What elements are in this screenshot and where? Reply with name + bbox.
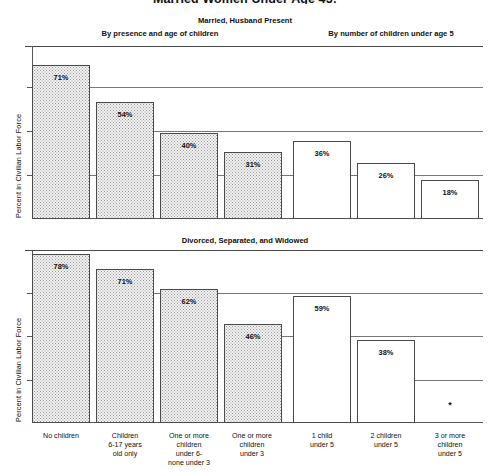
page-title: Married Women Under Age 45: [0, 0, 490, 4]
xlabel-line: Children [96, 432, 154, 441]
xlabel-line: none under 3 [158, 459, 220, 468]
panel1-bar-value: 26% [358, 171, 414, 180]
xlabel-line: old only [96, 450, 154, 459]
panel1-bar-under-3: 31% [224, 152, 282, 219]
panel2-bar-under-3: 46% [224, 324, 282, 423]
panel1-bar-3plus-children-under5: 18% [421, 180, 479, 219]
xlabel-line: One or more [158, 432, 220, 441]
xlabel-1-child-under5: 1 childunder 5 [293, 432, 351, 450]
xlabel-line: 6-17 years [96, 441, 154, 450]
xlabel-line: 3 or more [419, 432, 481, 441]
xlabel-under-3: One or morechildrenunder 3 [222, 432, 282, 459]
xlabel-3plus-children-under5: 3 or morechildrenunder 5 [419, 432, 481, 459]
xlabel-line: children [419, 441, 481, 450]
xlabel-line: 1 child [293, 432, 351, 441]
panel1-bar-value: 40% [161, 141, 217, 150]
panel1-bar-2-children-under5: 26% [357, 163, 415, 219]
chart-page: Married Women Under Age 45: Married, Hus… [0, 0, 490, 473]
panel1-plot-area: 71% 54% 40% 31% 36% 26% 18% [32, 46, 483, 219]
xlabel-children-6-17: Children6-17 yearsold only [96, 432, 154, 459]
xlabel-line: under 5 [293, 441, 351, 450]
xlabel-line: under 5 [357, 441, 415, 450]
panel2-suppressed-mark: * [421, 400, 479, 410]
xlabel-line: children [222, 441, 282, 450]
xlabel-line: 2 children [357, 432, 415, 441]
panel1-bar-value: 31% [225, 160, 281, 169]
panel1-bar-value: 36% [294, 149, 350, 158]
panel1-y-axis-label: Percent in Civilian Labor Force [14, 114, 23, 218]
panel1-bar-under6-none-under3: 40% [160, 133, 218, 219]
panel2-bar-1-child-under5: 59% [293, 296, 351, 423]
xlabel-line: under 3 [222, 450, 282, 459]
xlabel-line: One or more [222, 432, 282, 441]
panel1-group-left-label: By presence and age of children [25, 29, 295, 38]
panel1-gridline-40 [154, 131, 483, 132]
panel2-bar-3plus-children-under5-suppressed: * [421, 380, 479, 423]
panel2-plot-area: 78% 71% 62% 46% 59% 38% * [32, 250, 483, 423]
xlabel-2-children-under5: 2 childrenunder 5 [357, 432, 415, 450]
panel2-bar-value: 59% [294, 304, 350, 313]
xlabel-no-children: No children [32, 432, 90, 441]
panel1-bar-children-6-17: 54% [96, 102, 154, 219]
panel1-gridline-60 [90, 87, 483, 88]
xlabel-line: children [158, 441, 220, 450]
panel2-bar-2-children-under5: 38% [357, 340, 415, 423]
panel1-bar-value: 18% [422, 188, 478, 197]
panel1-bar-1-child-under5: 36% [293, 141, 351, 219]
panel1-group-right-label: By number of children under age 5 [300, 29, 482, 38]
xlabel-under6-none-under3: One or morechildrenunder 6-none under 3 [158, 432, 220, 468]
xlabel-line: under 5 [419, 450, 481, 459]
panel2-y-axis-label: Percent in Civilian Labor Force [14, 318, 23, 422]
panel2-bar-value: 78% [33, 262, 89, 271]
xlabel-line: under 6- [158, 450, 220, 459]
panel2-bar-value: 62% [161, 297, 217, 306]
panel2-bar-under6-none-under3: 62% [160, 289, 218, 423]
panel2-bar-value: 71% [97, 277, 153, 286]
panel1-bar-value: 54% [97, 110, 153, 119]
panel1-heading: Married, Husband Present [0, 16, 490, 25]
panel2-bar-value: 46% [225, 332, 281, 341]
panel2-bar-children-6-17: 71% [96, 269, 154, 423]
panel2-bar-value: 38% [358, 348, 414, 357]
panel2-bar-no-children: 78% [32, 254, 90, 423]
xlabel-line: No children [32, 432, 90, 441]
panel2-heading: Divorced, Separated, and Widowed [0, 236, 490, 245]
panel1-bar-no-children: 71% [32, 65, 90, 219]
panel1-bar-value: 71% [33, 73, 89, 82]
